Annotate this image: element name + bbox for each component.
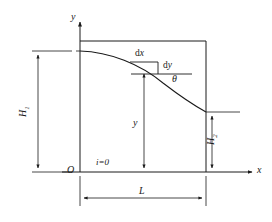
zero-gradient-label: i=0 [96, 158, 109, 167]
phreatic-surface-curve [80, 51, 206, 112]
dx-label-variable: x [140, 48, 144, 58]
seepage-diagram-figure: y x O H1 H2 L y i=0 dx dy θ [0, 0, 272, 222]
dx-label: dx [135, 49, 144, 59]
length-label: L [139, 186, 145, 196]
theta-label: θ [172, 74, 177, 84]
h1-label-text: H [17, 110, 28, 117]
origin-label: O [67, 165, 74, 175]
h2-label-subscript: 2 [211, 134, 219, 138]
y-axis-label: y [71, 12, 75, 22]
x-axis-label: x [257, 165, 261, 175]
h1-label-subscript: 1 [23, 106, 31, 110]
y-ordinate-label: y [133, 118, 137, 128]
dy-label-variable: y [168, 60, 172, 70]
h1-label: H1 [18, 102, 31, 122]
h2-label-text: H [205, 138, 216, 145]
h2-label: H2 [206, 130, 219, 150]
dy-label: dy [163, 61, 172, 71]
diagram-canvas [0, 0, 272, 222]
